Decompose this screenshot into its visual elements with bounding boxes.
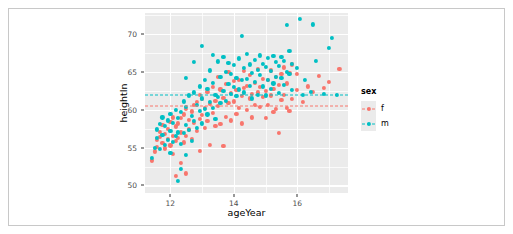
data-point: [279, 98, 283, 102]
data-point: [187, 118, 191, 122]
legend-label: m: [381, 119, 389, 128]
y-axis-tick-label: 55: [115, 143, 137, 152]
data-point: [224, 115, 228, 119]
data-point: [174, 108, 178, 112]
legend-items: fm: [361, 101, 431, 131]
data-point: [248, 84, 252, 88]
legend-key-m: [361, 116, 376, 131]
data-point: [213, 124, 217, 128]
data-point: [277, 83, 281, 87]
data-point: [295, 66, 299, 70]
data-point: [285, 23, 289, 27]
data-point: [234, 111, 238, 115]
data-point: [301, 100, 305, 104]
y-axis-tick-label: 70: [115, 30, 137, 39]
data-point: [263, 65, 267, 69]
data-point: [184, 76, 188, 80]
data-point: [253, 58, 257, 62]
data-point: [248, 62, 252, 66]
data-point: [277, 64, 281, 68]
data-point: [290, 97, 294, 101]
data-point: [210, 80, 214, 84]
data-point: [240, 78, 244, 82]
data-point: [210, 111, 214, 115]
data-point: [203, 77, 207, 81]
data-point: [226, 82, 230, 86]
data-point: [216, 59, 220, 63]
data-point: [298, 17, 302, 21]
mean-line-m: [145, 94, 348, 95]
data-point: [205, 112, 209, 116]
data-point: [210, 53, 214, 57]
data-point: [184, 123, 188, 127]
legend-item-m[interactable]: m: [361, 116, 431, 131]
data-point: [200, 113, 204, 117]
data-point: [226, 61, 230, 65]
data-point: [282, 65, 286, 69]
data-point: [163, 146, 167, 150]
data-point: [263, 116, 267, 120]
data-point: [182, 99, 186, 103]
mean-line-f: [145, 106, 348, 107]
data-point: [184, 171, 188, 175]
data-point: [174, 174, 178, 178]
data-point: [229, 118, 233, 122]
legend: sex fm: [361, 87, 431, 131]
y-axis-tick-mark: [141, 34, 144, 35]
data-point: [221, 55, 225, 59]
y-axis-tick-mark: [141, 185, 144, 186]
data-point: [329, 36, 333, 40]
data-point: [258, 53, 262, 57]
data-point: [190, 139, 194, 143]
gridline: [145, 15, 348, 16]
data-point: [216, 95, 220, 99]
data-point: [171, 139, 175, 143]
y-axis-title: heightIn: [118, 83, 129, 122]
legend-label: f: [381, 104, 384, 113]
gridline: [329, 13, 330, 193]
data-point: [240, 34, 244, 38]
data-point: [187, 128, 191, 132]
gridline: [297, 13, 298, 193]
data-point: [158, 147, 162, 151]
data-point: [213, 99, 217, 103]
data-point: [168, 129, 172, 133]
data-point: [295, 88, 299, 92]
data-point: [314, 59, 318, 63]
legend-item-f[interactable]: f: [361, 101, 431, 116]
data-point: [287, 108, 291, 112]
data-point: [274, 74, 278, 78]
data-point: [192, 60, 196, 64]
data-point: [250, 115, 254, 119]
data-point: [218, 75, 222, 79]
data-point: [250, 71, 254, 75]
gridline: [145, 91, 348, 92]
data-point: [232, 99, 236, 103]
data-point: [306, 84, 310, 88]
data-point: [245, 52, 249, 56]
data-point: [218, 101, 222, 105]
data-point: [245, 108, 249, 112]
data-point: [250, 96, 254, 100]
data-point: [245, 77, 249, 81]
data-point: [176, 121, 180, 125]
data-point: [271, 81, 275, 85]
plot-frame: 5055606570 121416 heightIn ageYear sex f…: [8, 8, 505, 226]
data-point: [237, 56, 241, 60]
y-axis-tick-mark: [141, 109, 144, 110]
x-axis-title: ageYear: [145, 207, 348, 218]
data-point: [321, 86, 325, 90]
data-point: [287, 72, 291, 76]
data-point: [327, 46, 331, 50]
data-point: [279, 76, 283, 80]
data-point: [200, 44, 204, 48]
data-point: [271, 54, 275, 58]
gridline: [145, 129, 348, 130]
data-point: [221, 89, 225, 93]
data-point: [184, 153, 188, 157]
legend-key-dot: [366, 121, 370, 125]
legend-key-dot: [366, 106, 370, 110]
data-point: [166, 138, 170, 142]
x-axis-tick-mark: [233, 194, 234, 197]
data-point: [179, 167, 183, 171]
